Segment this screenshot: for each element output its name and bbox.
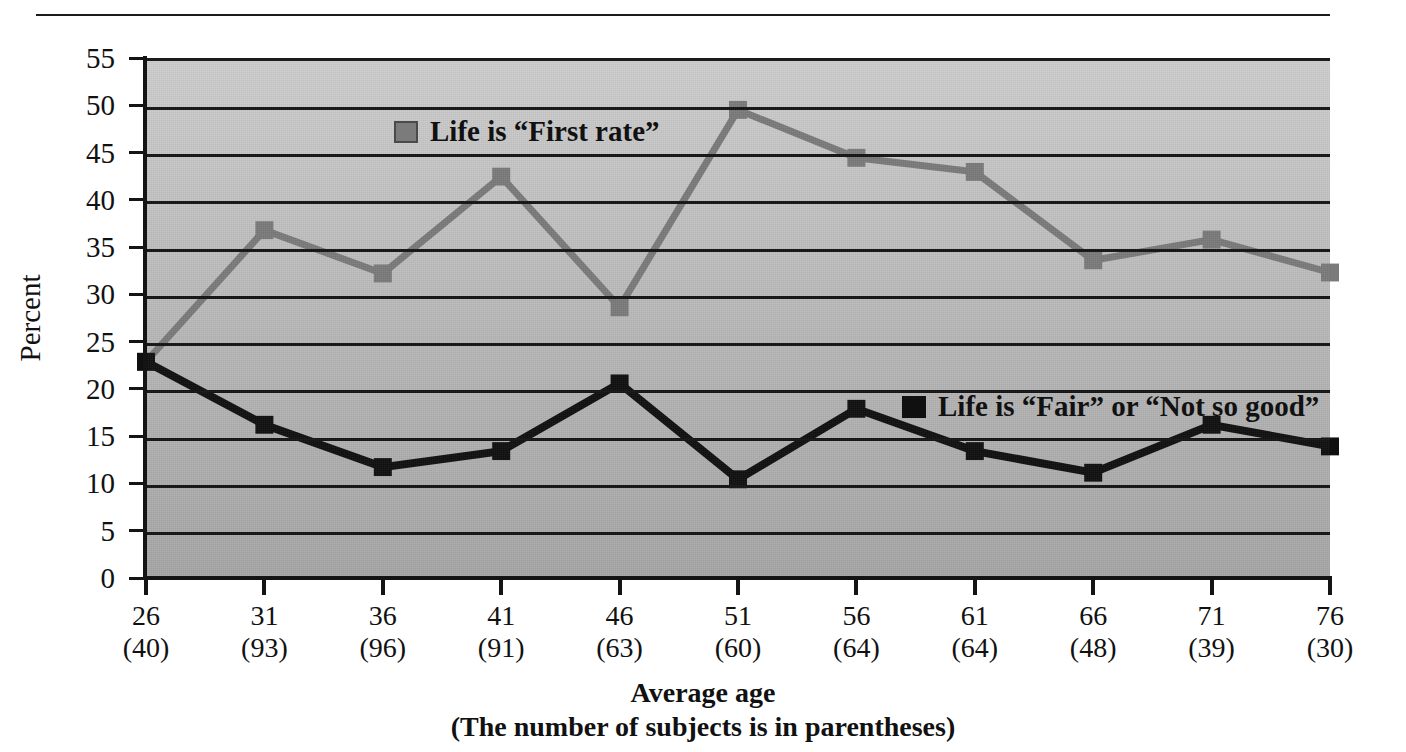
y-axis-title: Percent <box>14 275 47 362</box>
x-axis-category-label: 56(64) <box>833 600 880 665</box>
y-axis-tick-label: 55 <box>86 44 115 73</box>
x-axis-category-label: 46(63) <box>596 600 643 665</box>
x-axis-subject-count: (96) <box>359 632 406 664</box>
x-axis-subject-count: (40) <box>123 632 170 664</box>
y-axis-tick-label: 0 <box>101 564 116 593</box>
legend-item-fair-or-not: Life is “Fair” or “Not so good” <box>902 390 1319 423</box>
x-axis-subject-count: (64) <box>833 632 880 664</box>
x-axis-category-value: 31 <box>241 600 288 632</box>
x-axis-category-value: 56 <box>833 600 880 632</box>
x-axis-category-label: 41(91) <box>478 600 525 665</box>
x-axis-tick <box>499 578 503 595</box>
y-axis-tick-label: 45 <box>86 138 115 167</box>
x-axis-category-value: 66 <box>1070 600 1117 632</box>
x-axis-category-label: 76(30) <box>1307 600 1354 665</box>
x-axis-title-line1: Average age <box>631 677 776 708</box>
legend-label-first-rate: Life is “First rate” <box>430 115 660 148</box>
x-axis-tick <box>1328 578 1332 595</box>
x-axis-category-value: 36 <box>359 600 406 632</box>
x-axis-tick <box>618 578 622 595</box>
x-axis-category-value: 41 <box>478 600 525 632</box>
y-axis-tick <box>129 57 143 60</box>
y-axis-tick <box>129 293 143 296</box>
figure-chart: 0510152025303540455055 26(40)31(93)36(96… <box>0 0 1406 752</box>
x-axis-category-value: 26 <box>123 600 170 632</box>
x-axis-subject-count: (91) <box>478 632 525 664</box>
y-axis-tick-label: 30 <box>86 280 115 309</box>
x-axis-category-label: 51(60) <box>715 600 762 665</box>
x-axis-subject-count: (60) <box>715 632 762 664</box>
y-axis-line <box>143 56 147 580</box>
y-axis-tick <box>129 198 143 201</box>
y-axis-tick-label: 25 <box>86 327 115 356</box>
y-axis-tick-label: 5 <box>101 516 116 545</box>
legend-item-first-rate: Life is “First rate” <box>394 115 660 148</box>
data-point-marker <box>492 168 510 186</box>
plot-area <box>146 58 1330 578</box>
x-axis-title-line2: (The number of subjects is in parenthese… <box>0 710 1406 744</box>
x-axis-tick <box>1210 578 1214 595</box>
x-axis-subject-count: (48) <box>1070 632 1117 664</box>
x-axis-category-label: 61(64) <box>951 600 998 665</box>
y-axis-tick <box>129 529 143 532</box>
data-point-marker <box>1203 231 1221 249</box>
series-line <box>146 110 1330 362</box>
x-axis-tick <box>262 578 266 595</box>
x-axis-category-label: 36(96) <box>359 600 406 665</box>
y-axis-tick <box>129 104 143 107</box>
data-point-marker <box>374 264 392 282</box>
gridline <box>146 154 1330 157</box>
x-axis-tick <box>854 578 858 595</box>
x-axis-category-value: 46 <box>596 600 643 632</box>
x-axis-subject-count: (93) <box>241 632 288 664</box>
data-point-marker <box>1084 251 1102 269</box>
data-point-marker <box>1084 464 1102 482</box>
legend-swatch-first-rate-icon <box>394 121 418 143</box>
series-first-rate <box>137 101 1339 371</box>
x-axis-category-label: 66(48) <box>1070 600 1117 665</box>
gridline <box>146 532 1330 535</box>
x-axis-title: Average age (The number of subjects is i… <box>0 676 1406 744</box>
gridline <box>146 485 1330 488</box>
gridline <box>146 296 1330 299</box>
legend-label-fair-or-not: Life is “Fair” or “Not so good” <box>938 390 1319 423</box>
data-point-marker <box>1321 264 1339 282</box>
page-top-rule <box>36 14 1330 16</box>
series-layer <box>146 61 1330 578</box>
data-point-marker <box>966 163 984 181</box>
y-axis-tick-label: 20 <box>86 374 115 403</box>
gridline <box>146 201 1330 204</box>
x-axis-tick <box>144 578 148 595</box>
x-axis-subject-count: (30) <box>1307 632 1354 664</box>
x-axis-subject-count: (64) <box>951 632 998 664</box>
y-axis-tick <box>129 387 143 390</box>
data-point-marker <box>374 458 392 476</box>
x-axis-subject-count: (39) <box>1188 632 1235 664</box>
x-axis-category-value: 51 <box>715 600 762 632</box>
y-axis-tick <box>129 246 143 249</box>
y-axis-tick <box>129 151 143 154</box>
gridline <box>146 343 1330 346</box>
x-axis-tick <box>736 578 740 595</box>
y-axis-tick <box>129 435 143 438</box>
x-axis-subject-count: (63) <box>596 632 643 664</box>
data-point-marker <box>255 221 273 239</box>
gridline <box>146 107 1330 110</box>
gridline <box>146 249 1330 252</box>
x-axis-category-label: 31(93) <box>241 600 288 665</box>
x-axis-category-value: 71 <box>1188 600 1235 632</box>
x-axis-tick <box>381 578 385 595</box>
x-axis-category-value: 61 <box>951 600 998 632</box>
x-axis-tick <box>1091 578 1095 595</box>
y-axis-tick-label: 40 <box>86 185 115 214</box>
data-point-marker <box>255 416 273 434</box>
y-axis-tick-label: 15 <box>86 422 115 451</box>
y-axis-tick <box>129 482 143 485</box>
legend-swatch-fair-icon <box>902 396 926 418</box>
data-point-marker <box>966 442 984 460</box>
x-axis-category-label: 26(40) <box>123 600 170 665</box>
x-axis-category-label: 71(39) <box>1188 600 1235 665</box>
y-axis-tick-label: 35 <box>86 233 115 262</box>
y-axis-tick <box>129 577 143 580</box>
data-point-marker <box>847 149 865 167</box>
